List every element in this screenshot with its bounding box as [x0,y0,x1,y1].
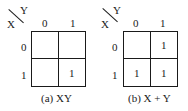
row-variable-label: X [7,19,15,30]
cell-x0-y0 [124,32,151,59]
caption: (b) X + Y [128,92,171,104]
row-header-1: 1 [112,70,118,81]
caption: (a) XY [41,92,72,104]
kmap-grid: 1 [31,31,86,87]
row-header-0: 0 [21,42,27,53]
col-header-1: 1 [160,18,166,29]
cell-x0-y1 [59,32,86,59]
cell-x0-y0 [32,32,59,59]
col-variable-label: Y [113,5,121,16]
cell-x1-y1: 1 [59,59,86,86]
row-variable-label: X [101,19,109,30]
kmap-grid: 1 1 1 [123,31,178,87]
col-header-1: 1 [70,18,76,29]
row-header-1: 1 [21,70,27,81]
cell-x1-y0 [32,59,59,86]
col-variable-label: Y [20,5,28,16]
kmap-x-plus-y: Y X 0 1 0 1 1 1 1 (b) X + Y [94,0,188,111]
row-header-0: 0 [112,42,118,53]
cell-x1-y1: 1 [151,59,178,86]
col-header-0: 0 [42,18,48,29]
col-header-0: 0 [133,18,139,29]
kmap-xy: Y X 0 1 0 1 1 (a) XY [0,0,94,111]
cell-x0-y1: 1 [151,32,178,59]
cell-x1-y0: 1 [124,59,151,86]
